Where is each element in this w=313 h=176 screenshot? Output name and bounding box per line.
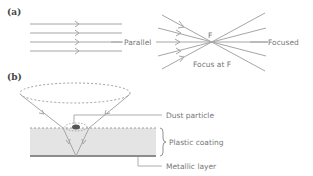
metal-leader	[138, 157, 162, 166]
aperture-ellipse	[20, 83, 130, 103]
metallic-layer-label: Metallic layer	[166, 162, 217, 171]
diagram-canvas: (a) Parallel F Focused Focus at F (b)	[0, 0, 313, 176]
focus-point-label: F	[208, 31, 212, 40]
plastic-coating	[30, 128, 156, 156]
parallel-label: Parallel	[124, 38, 151, 47]
panel-b-label: (b)	[7, 72, 22, 82]
coating-brace	[160, 128, 166, 156]
metallic-layer	[30, 155, 156, 157]
focused-label: Focused	[268, 38, 299, 47]
dust-particle-label: Dust particle	[166, 111, 214, 120]
panel-a-label: (a)	[7, 7, 21, 17]
dust-leader	[74, 115, 162, 124]
plastic-coating-label: Plastic coating	[169, 138, 224, 147]
parallel-rays	[30, 21, 122, 54]
focus-caption: Focus at F	[193, 60, 231, 69]
dust-particle	[72, 125, 80, 130]
